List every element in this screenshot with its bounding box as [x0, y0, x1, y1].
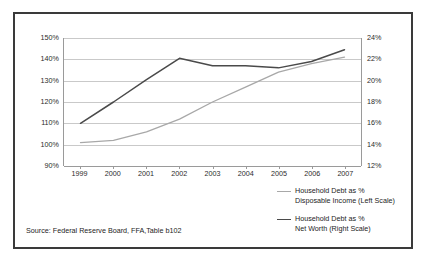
- right-axis-tick: 22%: [367, 56, 381, 63]
- x-axis-tick: 2007: [337, 169, 353, 178]
- x-axis-tick: 2001: [138, 169, 154, 178]
- x-axis-tick: 2002: [171, 169, 187, 178]
- left-axis-tick: 100%: [41, 141, 59, 148]
- right-axis-tick: 20%: [367, 77, 381, 84]
- right-axis-tick: 14%: [367, 141, 381, 148]
- series-lines: [64, 38, 361, 166]
- right-axis-tick: 16%: [367, 120, 381, 127]
- plot-area: [63, 38, 362, 166]
- right-axis-tick: 24%: [367, 34, 381, 41]
- left-axis-tick: 90%: [45, 162, 59, 169]
- legend-label-line1: Household Debt as %: [295, 186, 395, 196]
- x-axis-tick-mark: [213, 166, 214, 169]
- x-axis-tick: 1999: [72, 169, 88, 178]
- legend-label-line2: Disposable Income (Left Scale): [295, 196, 395, 206]
- left-axis-tick: 150%: [41, 34, 59, 41]
- x-axis-tick-labels: 199920002001200220032004200520062007: [63, 169, 362, 183]
- legend-swatch-net-worth: [277, 214, 291, 224]
- x-axis-tick-mark: [80, 166, 81, 169]
- right-axis-tick-labels: 12%14%16%18%20%22%24%: [367, 38, 403, 166]
- x-axis-tick: 2003: [205, 169, 221, 178]
- source-note: Source: Federal Reserve Board, FFA,Table…: [26, 226, 181, 235]
- x-axis-tick-mark: [312, 166, 313, 169]
- legend-entry: Household Debt as %Disposable Income (Le…: [277, 186, 409, 205]
- chart-figure: 90%100%110%120%130%140%150% 12%14%16%18%…: [13, 12, 413, 249]
- legend-swatch-disposable-income: [277, 186, 291, 196]
- x-axis-tick: 2004: [238, 169, 254, 178]
- x-axis-tick-mark: [146, 166, 147, 169]
- legend-label: Household Debt as %Net Worth (Right Scal…: [295, 214, 371, 233]
- legend-label: Household Debt as %Disposable Income (Le…: [295, 186, 395, 205]
- series-line-2: [80, 50, 344, 124]
- legend-label-line2: Net Worth (Right Scale): [295, 224, 371, 234]
- x-axis-tick-mark: [113, 166, 114, 169]
- x-axis-tick: 2005: [271, 169, 287, 178]
- left-axis-tick: 120%: [41, 98, 59, 105]
- x-axis-tick-mark: [179, 166, 180, 169]
- x-axis-tick-mark: [345, 166, 346, 169]
- x-axis-tick: 2006: [304, 169, 320, 178]
- right-axis-tick: 18%: [367, 98, 381, 105]
- series-line-1: [80, 57, 344, 142]
- legend-label-line1: Household Debt as %: [295, 214, 371, 224]
- chart-legend: Household Debt as %Disposable Income (Le…: [277, 186, 409, 243]
- right-axis-tick: 12%: [367, 162, 381, 169]
- legend-entry: Household Debt as %Net Worth (Right Scal…: [277, 214, 409, 233]
- left-axis-tick-labels: 90%100%110%120%130%140%150%: [23, 38, 59, 166]
- left-axis-tick: 110%: [41, 120, 59, 127]
- x-axis-tick: 2000: [105, 169, 121, 178]
- left-axis-tick: 140%: [41, 56, 59, 63]
- left-axis-tick: 130%: [41, 77, 59, 84]
- x-axis-tick-mark: [279, 166, 280, 169]
- x-axis-tick-mark: [246, 166, 247, 169]
